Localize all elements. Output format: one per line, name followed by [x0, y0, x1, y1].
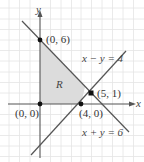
point-0-6: [38, 38, 43, 43]
linear-programming-diagram: y x R x − y = 4 x + y = 6 (0, 6) (0, 0) …: [0, 0, 144, 162]
point-5-1: [89, 91, 94, 96]
y-axis-label: y: [35, 3, 41, 15]
line-x-minus-y-4-label: x − y = 4: [81, 52, 124, 64]
point-0-0-label: (0, 0): [15, 107, 39, 120]
point-4-0-label: (4, 0): [79, 107, 103, 120]
point-0-0: [38, 102, 43, 107]
point-0-6-label: (0, 6): [46, 33, 70, 46]
line-x-plus-y-6-label: x + y = 6: [81, 126, 124, 138]
x-axis-label: x: [135, 97, 141, 109]
region-label: R: [55, 78, 63, 90]
x-axis-arrow-icon: [129, 102, 136, 107]
point-5-1-label: (5, 1): [97, 87, 121, 100]
point-4-0: [79, 102, 84, 107]
